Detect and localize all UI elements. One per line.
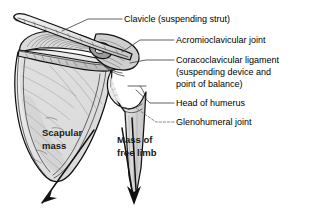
callout-glenohumeral-joint-line-0: Glenohumeral joint (176, 117, 252, 127)
overlay-scapular-mass-line-0: Scapular (42, 127, 82, 138)
callout-head-of-humerus: Head of humerus (176, 98, 246, 108)
callout-coracoclavicular-ligament-line-0: Coracoclavicular ligament (176, 55, 280, 65)
callout-acromioclavicular-joint: Acromioclavicular joint (176, 35, 266, 45)
shoulder-girdle-illustration: Clavicle (suspending strut) Acromioclavi… (0, 0, 313, 224)
callout-acromioclavicular-joint-line-0: Acromioclavicular joint (176, 35, 266, 45)
callout-clavicle: Clavicle (suspending strut) (124, 14, 230, 24)
overlay-mass-of-free-limb-line-0: Mass of (117, 134, 153, 145)
callout-clavicle-line-0: Clavicle (suspending strut) (124, 14, 230, 24)
anatomical-figure: Clavicle (suspending strut) Acromioclavi… (0, 0, 313, 224)
overlay-scapular-mass-line-1: mass (42, 140, 66, 151)
callout-coracoclavicular-ligament-line-2: point of balance) (176, 79, 243, 89)
overlay-mass-of-free-limb-line-1: free limb (117, 147, 157, 158)
callout-coracoclavicular-ligament-line-1: (suspending device and (176, 67, 271, 77)
callout-head-of-humerus-line-0: Head of humerus (176, 98, 246, 108)
callout-glenohumeral-joint: Glenohumeral joint (176, 117, 252, 127)
